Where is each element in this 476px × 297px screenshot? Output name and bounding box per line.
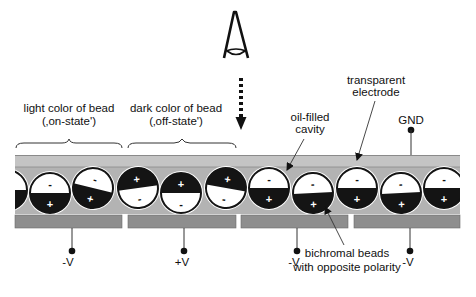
positive-charge-icon: +: [4, 195, 10, 207]
bead-2: +-: [28, 171, 72, 215]
positive-charge-icon: +: [178, 178, 184, 190]
bead-9: +-: [335, 166, 379, 210]
transparent-electrode-leader: [357, 101, 375, 160]
bead-5: +-: [159, 171, 203, 215]
on-state-label: light color of bead: [24, 102, 115, 114]
positive-charge-icon: +: [310, 198, 317, 210]
top-electrode-layer: [15, 155, 460, 167]
on-state-brace: [16, 139, 122, 148]
negative-charge-icon: -: [442, 173, 446, 185]
bichromal-beads-label: bichromal beads: [305, 247, 390, 259]
positive-charge-icon: +: [441, 193, 447, 205]
negative-charge-icon: -: [267, 173, 271, 185]
display-cross-section-diagram: light color of bead (‚on-state') dark co…: [0, 0, 476, 297]
eye-icon: [224, 12, 248, 58]
off-state-label: dark color of bead: [130, 102, 222, 114]
bichromal-beads-sublabel: with opposite polarity: [292, 261, 401, 273]
off-state-brace: [128, 139, 236, 148]
transparent-electrode-label: transparent: [347, 74, 406, 86]
gnd-label: GND: [398, 114, 424, 126]
terminal-1: -V: [62, 228, 75, 268]
viewing-direction-arrow: [236, 78, 247, 130]
off-state-sublabel: (‚off-state'): [149, 115, 203, 127]
negative-charge-icon: -: [355, 173, 359, 185]
on-state-sublabel: (‚on-state'): [42, 115, 96, 127]
positive-charge-icon: +: [266, 193, 272, 205]
bottom-electrode-2: [128, 215, 236, 228]
oil-cavity-sublabel: cavity: [295, 123, 325, 135]
bead-11: +-: [422, 166, 466, 210]
bottom-electrode-4: [354, 215, 460, 228]
positive-charge-icon: +: [398, 198, 405, 210]
terminal-2-label: +V: [175, 256, 190, 268]
positive-charge-icon: +: [47, 198, 53, 210]
negative-charge-icon: -: [5, 175, 9, 187]
terminal-4: -V: [402, 228, 414, 268]
bead-7: +-: [247, 166, 291, 210]
terminal-1-label: -V: [62, 256, 74, 268]
oil-cavity-label: oil-filled: [291, 111, 330, 123]
transparent-electrode-sublabel: electrode: [352, 86, 399, 98]
terminal-2: +V: [175, 228, 190, 268]
bottom-electrodes: [15, 215, 460, 228]
bottom-electrode-1: [15, 215, 122, 228]
negative-charge-icon: -: [48, 178, 52, 190]
negative-charge-icon: -: [179, 198, 183, 210]
terminal-4-label: -V: [402, 256, 414, 268]
positive-charge-icon: +: [354, 193, 360, 205]
